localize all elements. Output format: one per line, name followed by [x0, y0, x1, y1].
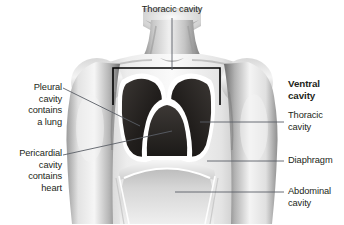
label-thoracic-cavity-top: Thoracic cavity: [120, 4, 224, 16]
label-pericardial-cavity: Pericardial cavity contains heart: [0, 148, 62, 194]
bicep-left-highlight: [76, 94, 104, 162]
figure-canvas: Thoracic cavity Pleural cavity contains …: [0, 0, 344, 224]
abdominal-cavity: [120, 169, 215, 225]
bicep-right-highlight: [240, 94, 268, 162]
label-abdominal-cavity: Abdominal cavity: [288, 186, 344, 209]
label-thoracic-cavity-right: Thoracic cavity: [288, 110, 344, 133]
label-diaphragm: Diaphragm: [288, 155, 344, 167]
label-pleural-cavity: Pleural cavity contains a lung: [0, 82, 62, 128]
label-ventral-cavity-heading: Ventral cavity: [288, 78, 344, 102]
